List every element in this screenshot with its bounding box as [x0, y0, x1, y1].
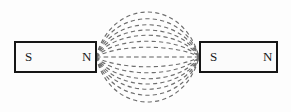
- magnetic-field-figure: S N S N: [0, 0, 291, 112]
- right-magnet: S N: [200, 42, 277, 72]
- field-line-top-6: [96, 41, 199, 57]
- field-line-top-7: [96, 47, 199, 57]
- right-magnet-north-label: N: [263, 49, 273, 64]
- field-line-top-5: [96, 35, 199, 57]
- left-magnet-north-label: N: [82, 49, 92, 64]
- field-line-top-4: [96, 30, 199, 57]
- field-line-bottom-2: [96, 57, 199, 73]
- figure-canvas: S N S N: [0, 0, 291, 112]
- left-magnet: S N: [15, 42, 96, 72]
- left-magnet-south-label: S: [25, 49, 32, 64]
- field-line-bottom-4: [96, 57, 199, 84]
- field-line-bottom-1: [96, 57, 199, 67]
- field-line-bottom-3: [96, 57, 199, 79]
- field-lines-group: [96, 12, 199, 102]
- right-magnet-south-label: S: [210, 49, 217, 64]
